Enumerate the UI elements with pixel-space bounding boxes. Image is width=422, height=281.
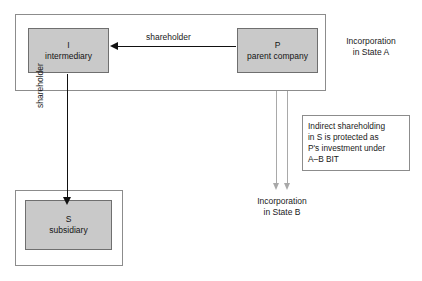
entity-letter-parent: P: [275, 40, 281, 51]
entity-letter-intermediary: I: [67, 40, 69, 51]
note-line-1: Indirect shareholding: [308, 121, 409, 132]
diagram-canvas: I intermediary P parent company S subsid…: [0, 0, 422, 281]
arrow-intermediary-to-subsidiary: [67, 74, 68, 199]
gray-arrow-incorporation-2: [287, 91, 288, 184]
entity-letter-subsidiary: S: [66, 214, 72, 225]
arrowhead-down-icon: [63, 197, 71, 205]
entity-name-intermediary: intermediary: [45, 51, 92, 62]
jurisdiction-state-b-line1: Incorporation: [246, 196, 318, 207]
entity-box-subsidiary[interactable]: S subsidiary: [25, 200, 112, 250]
jurisdiction-state-a-line2: in State A: [336, 47, 406, 58]
note-line-3: P's investment under: [308, 143, 409, 154]
jurisdiction-state-a-line1: Incorporation: [336, 36, 406, 47]
entity-name-subsidiary: subsidiary: [49, 225, 87, 236]
arrow-parent-to-intermediary: [112, 46, 236, 47]
edge-label-shareholder-vertical: shareholder: [35, 63, 46, 108]
note-line-4: A–B BIT: [308, 154, 409, 165]
gray-arrowhead-1-icon: [273, 183, 279, 190]
note-box-indirect-shareholding: Indirect shareholding in S is protected …: [302, 115, 410, 171]
note-line-2: in S is protected as: [308, 132, 409, 143]
edge-label-shareholder-horizontal: shareholder: [146, 32, 191, 43]
gray-arrowhead-2-icon: [284, 183, 290, 190]
gray-arrow-incorporation-1: [276, 91, 277, 184]
jurisdiction-label-state-b: Incorporation in State B: [246, 196, 318, 218]
arrowhead-left-icon: [110, 42, 118, 50]
jurisdiction-label-state-a: Incorporation in State A: [336, 36, 406, 58]
jurisdiction-state-b-line2: in State B: [246, 207, 318, 218]
entity-name-parent: parent company: [247, 51, 308, 62]
entity-box-parent-company[interactable]: P parent company: [237, 28, 318, 73]
